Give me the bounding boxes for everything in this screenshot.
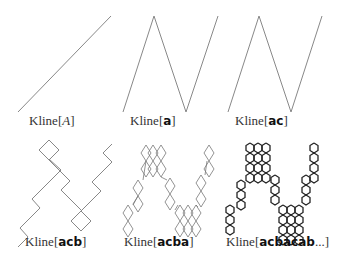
caption-kline-a: Kline[a]: [130, 113, 176, 129]
caption-prefix: Kline[: [235, 113, 268, 128]
caption-kline-ac: Kline[ac]: [235, 113, 288, 129]
kline-figure: [0, 0, 340, 271]
caption-prefix: Kline[: [226, 234, 259, 249]
caption-arg: acb: [58, 235, 82, 249]
caption-arg: acbacab: [259, 235, 315, 249]
caption-prefix: Kline[: [130, 113, 163, 128]
caption-suffix: ...]: [315, 234, 329, 249]
caption-arg: acba: [157, 235, 189, 249]
caption-suffix: ]: [189, 234, 193, 249]
caption-kline-A: Kline[A]: [29, 113, 75, 129]
caption-suffix: ]: [283, 113, 287, 128]
panel-kline-acba-curve: [123, 145, 214, 237]
caption-kline-acb: Kline[acb]: [25, 234, 86, 250]
panel-kline-a-curve: [123, 16, 218, 112]
caption-kline-acbacab: Kline[acbacab...]: [226, 234, 329, 250]
caption-prefix: Kline[: [124, 234, 157, 249]
caption-suffix: ]: [82, 234, 86, 249]
panel-kline-acbacab-curve: [226, 143, 318, 245]
panel-kline-ac-curve: [228, 16, 322, 112]
caption-suffix: ]: [70, 113, 74, 128]
caption-suffix: ]: [171, 113, 175, 128]
caption-prefix: Kline[: [29, 113, 62, 128]
caption-arg: ac: [268, 114, 283, 128]
panel-kline-A-curve: [18, 16, 111, 112]
panel-kline-acb-curve: [18, 140, 112, 247]
caption-arg: A: [62, 113, 70, 128]
caption-prefix: Kline[: [25, 234, 58, 249]
caption-kline-acba: Kline[acba]: [124, 234, 193, 250]
